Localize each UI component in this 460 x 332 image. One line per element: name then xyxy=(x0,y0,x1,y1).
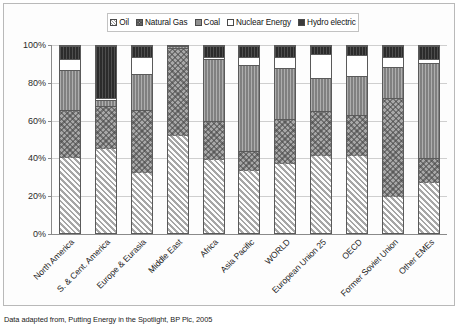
bar-column[interactable] xyxy=(418,45,440,234)
bar-segment-nuclear[interactable] xyxy=(419,59,439,63)
bar-column[interactable] xyxy=(131,45,153,234)
bar-segment-coal[interactable] xyxy=(60,70,80,109)
bar-segment-coal[interactable] xyxy=(383,67,403,99)
bar-segment-oil[interactable] xyxy=(60,158,80,233)
bar-segment-gas[interactable] xyxy=(311,111,331,156)
plot-area: 0%20%40%60%80%100% xyxy=(51,45,447,235)
legend-item-nuclear[interactable]: Nuclear Energy xyxy=(227,18,291,27)
bar-segment-gas[interactable] xyxy=(168,48,188,136)
bar-segment-gas[interactable] xyxy=(60,110,80,159)
bar-segment-hydro[interactable] xyxy=(239,46,259,57)
plot-wrapper: 0%20%40%60%80%100% xyxy=(51,45,447,235)
bar-segment-oil[interactable] xyxy=(347,156,367,233)
chart-frame: OilNatural GasCoalNuclear EnergyHydro el… xyxy=(3,3,455,306)
bar-segment-nuclear[interactable] xyxy=(383,57,403,66)
x-axis-label: Africa xyxy=(198,237,220,259)
bar-segment-oil[interactable] xyxy=(132,173,152,233)
natural-gas-swatch-icon xyxy=(136,19,143,26)
bar-segment-coal[interactable] xyxy=(168,46,188,48)
bar-segment-nuclear[interactable] xyxy=(275,57,295,68)
legend-item-coal[interactable]: Coal xyxy=(195,18,220,27)
bar-segment-coal[interactable] xyxy=(132,74,152,110)
legend-label-oil: Oil xyxy=(119,18,129,27)
bar-column[interactable] xyxy=(310,45,332,234)
bar-segment-oil[interactable] xyxy=(311,156,331,233)
bar-segment-hydro[interactable] xyxy=(419,46,439,59)
bar-segment-coal[interactable] xyxy=(347,76,367,115)
bar-segment-gas[interactable] xyxy=(383,98,403,197)
bar-segment-coal[interactable] xyxy=(419,63,439,158)
bar-segment-coal[interactable] xyxy=(311,78,331,112)
nuclear-swatch-icon xyxy=(227,19,234,26)
x-axis-label: Asia Pacific xyxy=(218,237,256,275)
bar-segment-gas[interactable] xyxy=(275,119,295,164)
bar-segment-coal[interactable] xyxy=(204,59,224,121)
bar-segment-nuclear[interactable] xyxy=(132,57,152,74)
coal-swatch-icon xyxy=(195,19,202,26)
bar-segment-hydro[interactable] xyxy=(311,46,331,53)
bar-segment-hydro[interactable] xyxy=(96,46,116,98)
bar-series-group xyxy=(52,45,447,234)
y-tick-label-0: 0% xyxy=(33,229,46,239)
bar-column[interactable] xyxy=(346,45,368,234)
y-tick-label-60: 60% xyxy=(28,116,46,126)
bar-segment-hydro[interactable] xyxy=(132,46,152,57)
legend-label-hydro: Hydro electric xyxy=(307,18,356,27)
bar-segment-hydro[interactable] xyxy=(60,46,80,59)
bar-segment-coal[interactable] xyxy=(239,65,259,151)
x-axis-label: OECD xyxy=(340,237,364,261)
bar-segment-nuclear[interactable] xyxy=(96,98,116,100)
legend-label-nuclear: Nuclear Energy xyxy=(236,18,291,27)
x-axis-labels: North AmericaS. & Cent. AmericaEurope & … xyxy=(51,237,447,309)
legend-item-oil[interactable]: Oil xyxy=(110,18,129,27)
bar-column[interactable] xyxy=(382,45,404,234)
chart-legend: OilNatural GasCoalNuclear EnergyHydro el… xyxy=(107,13,359,32)
bar-segment-nuclear[interactable] xyxy=(60,59,80,70)
bar-segment-hydro[interactable] xyxy=(347,46,367,55)
bar-segment-hydro[interactable] xyxy=(275,46,295,57)
bar-segment-gas[interactable] xyxy=(419,158,439,182)
bar-segment-coal[interactable] xyxy=(96,100,116,106)
y-tick-label-80: 80% xyxy=(28,78,46,88)
bar-column[interactable] xyxy=(203,45,225,234)
x-axis-label: Middle East xyxy=(146,237,184,275)
bar-segment-oil[interactable] xyxy=(383,197,403,233)
bar-segment-oil[interactable] xyxy=(204,160,224,233)
legend-label-coal: Coal xyxy=(204,18,220,27)
legend-item-gas[interactable]: Natural Gas xyxy=(136,18,188,27)
legend-label-gas: Natural Gas xyxy=(145,18,188,27)
hydro-swatch-icon xyxy=(298,19,305,26)
bar-column[interactable] xyxy=(167,45,189,234)
oil-swatch-icon xyxy=(110,19,117,26)
bar-segment-nuclear[interactable] xyxy=(204,57,224,59)
bar-segment-nuclear[interactable] xyxy=(311,54,331,78)
legend-item-hydro[interactable]: Hydro electric xyxy=(298,18,356,27)
bar-segment-gas[interactable] xyxy=(239,151,259,172)
bar-segment-gas[interactable] xyxy=(132,110,152,174)
bar-column[interactable] xyxy=(274,45,296,234)
y-tick-label-20: 20% xyxy=(28,191,46,201)
bar-column[interactable] xyxy=(59,45,81,234)
bar-column[interactable] xyxy=(238,45,260,234)
bar-segment-hydro[interactable] xyxy=(383,46,403,57)
bar-column[interactable] xyxy=(95,45,117,234)
bar-segment-nuclear[interactable] xyxy=(347,55,367,76)
bar-segment-oil[interactable] xyxy=(419,183,439,233)
bar-segment-hydro[interactable] xyxy=(204,46,224,57)
x-axis-label: Other EMEs xyxy=(397,237,436,276)
bar-segment-gas[interactable] xyxy=(204,121,224,160)
bar-segment-oil[interactable] xyxy=(275,164,295,233)
y-tick-label-100: 100% xyxy=(23,40,46,50)
source-footnote: Data adapted from, Putting Energy in the… xyxy=(4,315,212,324)
bar-segment-coal[interactable] xyxy=(275,68,295,118)
bar-segment-oil[interactable] xyxy=(168,136,188,233)
bar-segment-nuclear[interactable] xyxy=(239,57,259,64)
y-tick-label-40: 40% xyxy=(28,153,46,163)
bar-segment-oil[interactable] xyxy=(96,149,116,233)
bar-segment-oil[interactable] xyxy=(239,171,259,233)
bar-segment-gas[interactable] xyxy=(96,106,116,149)
x-axis-label: WORLD xyxy=(263,237,292,266)
bar-segment-gas[interactable] xyxy=(347,115,367,156)
y-tick-mark-0 xyxy=(48,234,52,235)
